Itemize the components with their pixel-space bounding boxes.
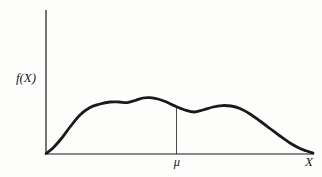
mean-label: μ	[174, 156, 180, 169]
density-curve-figure: f(X) μ X	[0, 0, 322, 177]
plot-canvas	[0, 0, 322, 177]
density-curve	[46, 98, 313, 154]
x-axis-label: X	[305, 155, 313, 168]
y-axis-label: f(X)	[9, 71, 43, 84]
